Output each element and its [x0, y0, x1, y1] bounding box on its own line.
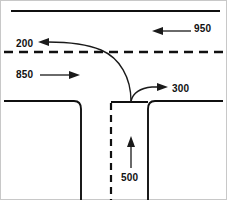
major-road-south-edge-west [4, 101, 81, 200]
volume-label-500: 500 [121, 172, 138, 183]
arrow-head-950 [152, 27, 163, 35]
arrow-head-500 [127, 136, 135, 147]
arrow-head-300 [157, 83, 168, 91]
volume-label-300: 300 [172, 83, 189, 94]
curve-200-left-turn [48, 42, 131, 101]
major-road-south-edge-east [148, 101, 223, 200]
traffic-intersection-diagram: 200 950 850 300 500 [0, 0, 227, 200]
intersection-drawing [0, 0, 227, 200]
arrow-head-850 [69, 71, 80, 79]
volume-label-950: 950 [194, 23, 211, 34]
curve-300-right-turn [131, 87, 159, 101]
volume-label-850: 850 [16, 69, 33, 80]
arrow-head-200 [38, 38, 49, 46]
image-frame [1, 1, 227, 200]
volume-label-200: 200 [16, 38, 33, 49]
